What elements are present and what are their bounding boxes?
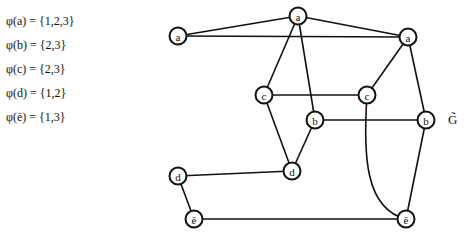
edge-a_right-b_right bbox=[408, 37, 426, 120]
svg-text:ē: ē bbox=[192, 214, 197, 226]
edge-a_top-b_left bbox=[298, 16, 315, 120]
svg-text:c: c bbox=[365, 90, 370, 102]
graph-edges bbox=[178, 16, 426, 219]
svg-text:a: a bbox=[406, 32, 411, 44]
node-e-left: ē bbox=[186, 211, 203, 228]
edge-c_right-e_right bbox=[366, 95, 406, 219]
svg-text:a: a bbox=[296, 11, 301, 23]
svg-text:b: b bbox=[423, 115, 429, 127]
svg-text:a: a bbox=[176, 31, 181, 43]
edge-d_mid-d_left bbox=[178, 171, 292, 176]
graph-diagram: aaaccbbddēē bbox=[0, 0, 469, 236]
svg-text:ē: ē bbox=[404, 214, 409, 226]
node-b-left: b bbox=[307, 112, 324, 129]
edge-a_top-a_right bbox=[298, 16, 408, 37]
node-b-right: b bbox=[418, 112, 435, 129]
edge-b_right-e_right bbox=[406, 120, 426, 219]
node-c-left: c bbox=[256, 87, 273, 104]
svg-text:d: d bbox=[289, 166, 295, 178]
svg-text:b: b bbox=[312, 115, 318, 127]
node-a-left: a bbox=[170, 28, 187, 45]
node-c-right: c bbox=[359, 87, 376, 104]
node-a-right: a bbox=[400, 29, 417, 46]
svg-text:c: c bbox=[262, 90, 267, 102]
graph-label: G̃ bbox=[448, 112, 457, 128]
svg-text:d: d bbox=[175, 171, 181, 183]
edge-a_left-a_top bbox=[178, 16, 298, 36]
edge-a_right-c_right bbox=[367, 37, 408, 95]
node-e-right: ē bbox=[398, 211, 415, 228]
edge-c_left-d_mid bbox=[264, 95, 292, 171]
edge-a_left-a_right bbox=[178, 36, 408, 37]
node-d-left: d bbox=[170, 168, 187, 185]
node-a-top: a bbox=[290, 8, 307, 25]
node-d-mid: d bbox=[284, 163, 301, 180]
edge-a_top-c_left bbox=[264, 16, 298, 95]
